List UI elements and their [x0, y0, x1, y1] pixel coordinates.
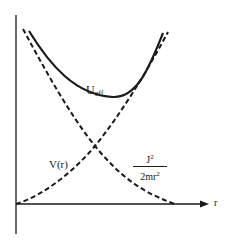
centrifugal-term-label: J2 2mr2 [132, 152, 168, 182]
v-r-label: V(r) [49, 159, 68, 170]
x-axis-label: r [214, 198, 217, 208]
x-axis-arrowhead-icon [200, 201, 209, 208]
u-eff-label: Ueff [86, 84, 103, 98]
fraction-numerator: J2 [132, 152, 168, 165]
fraction-denominator: 2mr2 [132, 169, 168, 182]
plot-canvas [0, 0, 229, 243]
effective-potential-diagram: Ueff V(r) J2 2mr2 r [0, 0, 229, 243]
fraction-bar [133, 166, 167, 167]
